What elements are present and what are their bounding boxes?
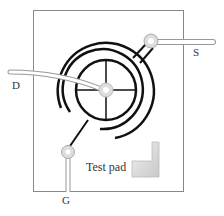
source-label: S [193, 46, 199, 58]
device-diagram [0, 0, 224, 216]
drain-label: D [12, 79, 20, 91]
test-pad-shape [132, 142, 159, 177]
gate-label: G [62, 194, 70, 206]
gate-connector [70, 120, 88, 146]
test-pad-label: Test pad [86, 160, 126, 175]
